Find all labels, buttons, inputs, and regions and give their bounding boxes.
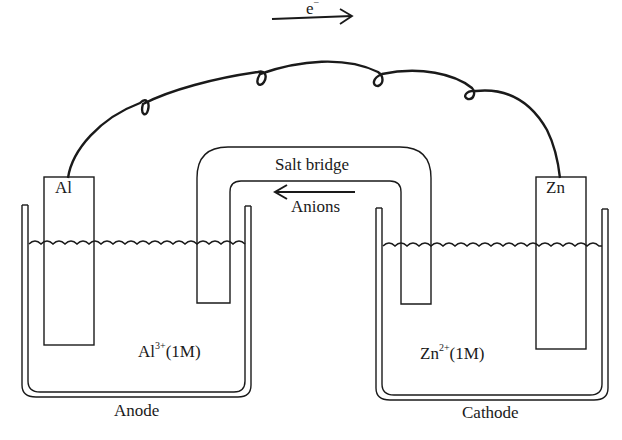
electron-symbol: e <box>306 0 314 18</box>
cathode-label: Cathode <box>462 403 519 423</box>
anode-solution-surface <box>29 241 245 244</box>
anode-ion-charge: 3+ <box>155 340 166 351</box>
al-electrode <box>44 177 94 345</box>
cathode-ion-charge: 2+ <box>439 342 450 353</box>
cathode-concentration: (1M) <box>450 344 485 363</box>
anode-label: Anode <box>114 401 159 421</box>
anode-concentration: (1M) <box>166 342 201 361</box>
anions-label: Anions <box>291 197 340 217</box>
cathode-ion-symbol: Zn <box>420 344 439 363</box>
electron-label: e− <box>306 0 319 19</box>
zn-electrode <box>536 177 586 349</box>
zn-electrode-label: Zn <box>546 178 565 198</box>
salt-bridge-label: Salt bridge <box>275 155 349 175</box>
electron-charge: − <box>314 0 320 8</box>
anode-solution-label: Al3+(1M) <box>138 342 201 362</box>
cathode-solution-surface <box>383 243 602 246</box>
cathode-solution-label: Zn2+(1M) <box>420 344 484 364</box>
al-electrode-label: Al <box>55 178 72 198</box>
electrochemical-cell-diagram <box>0 0 622 440</box>
anode-ion-symbol: Al <box>138 342 155 361</box>
anode-beaker <box>22 205 251 397</box>
